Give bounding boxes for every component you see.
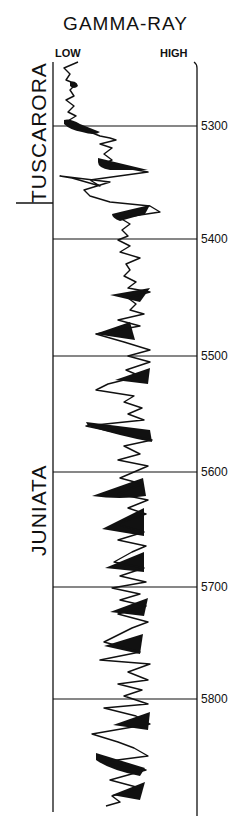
gamma-ray-fill: [64, 82, 152, 801]
gamma-ray-log-track: [0, 0, 251, 822]
right-axis: [194, 62, 197, 816]
